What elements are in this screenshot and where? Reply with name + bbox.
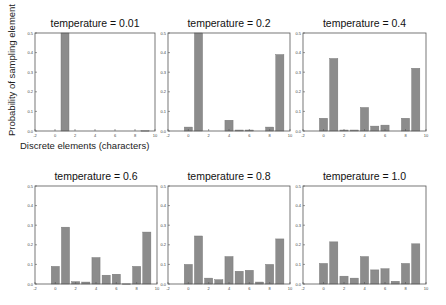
bar bbox=[61, 33, 69, 131]
plot-frame bbox=[168, 33, 290, 131]
bar bbox=[102, 275, 110, 284]
y-tick-label: 0.2 bbox=[295, 242, 301, 247]
y-axis-label: Probability of sampling element bbox=[6, 16, 18, 136]
x-tick-label: 4 bbox=[94, 133, 97, 138]
x-tick-label: 6 bbox=[115, 286, 118, 291]
bar bbox=[371, 270, 379, 284]
bar bbox=[381, 269, 389, 284]
x-tick-label: 8 bbox=[404, 286, 407, 291]
x-tick-label: 4 bbox=[363, 286, 366, 291]
panel-4: temperature = 0.8-202468100.00.10.20.30.… bbox=[154, 170, 304, 298]
y-tick-label: 0.0 bbox=[27, 282, 33, 287]
y-tick-label: 0.1 bbox=[27, 262, 33, 267]
y-tick-label: 0.2 bbox=[27, 242, 33, 247]
y-tick-label: 0.4 bbox=[160, 203, 166, 208]
y-tick-label: 0.2 bbox=[27, 89, 33, 94]
x-tick-label: 10 bbox=[424, 286, 429, 291]
y-tick-label: 0.3 bbox=[295, 223, 301, 228]
x-tick-label: 6 bbox=[248, 133, 251, 138]
bar bbox=[194, 236, 202, 284]
x-tick-label: -2 bbox=[166, 133, 170, 138]
bar bbox=[61, 227, 69, 284]
x-tick-label: 2 bbox=[208, 286, 211, 291]
y-tick-label: 0.3 bbox=[27, 223, 33, 228]
x-tick-label: 2 bbox=[208, 133, 211, 138]
x-tick-label: 2 bbox=[343, 286, 346, 291]
y-tick-label: 0.0 bbox=[27, 129, 33, 134]
x-tick-label: 0 bbox=[187, 286, 190, 291]
x-tick-label: -2 bbox=[166, 286, 170, 291]
panel-3: temperature = 0.6-202468100.00.10.20.30.… bbox=[21, 170, 171, 298]
y-tick-label: 0.4 bbox=[160, 50, 166, 55]
bar bbox=[184, 264, 192, 284]
y-tick-label: 0.5 bbox=[160, 31, 166, 36]
bar bbox=[133, 266, 141, 284]
x-tick-label: -2 bbox=[33, 133, 37, 138]
bar-chart: -202468100.00.10.20.30.40.5 bbox=[21, 170, 171, 298]
x-tick-label: 6 bbox=[384, 133, 387, 138]
y-tick-label: 0.3 bbox=[27, 70, 33, 75]
x-tick-label: 6 bbox=[248, 286, 251, 291]
x-tick-label: 2 bbox=[74, 133, 77, 138]
bar bbox=[330, 58, 338, 131]
bar bbox=[360, 107, 368, 131]
y-tick-label: 0.1 bbox=[295, 262, 301, 267]
bar bbox=[360, 257, 368, 284]
plot-frame bbox=[35, 33, 155, 131]
y-tick-label: 0.1 bbox=[295, 109, 301, 114]
x-tick-label: 8 bbox=[269, 133, 272, 138]
bar-chart: -202468100.00.10.20.30.40.5 bbox=[289, 17, 440, 145]
y-tick-label: 0.4 bbox=[295, 50, 301, 55]
y-tick-label: 0.4 bbox=[27, 203, 33, 208]
x-tick-label: 2 bbox=[75, 286, 78, 291]
x-tick-label: 4 bbox=[95, 286, 98, 291]
y-tick-label: 0.0 bbox=[295, 129, 301, 134]
y-tick-label: 0.2 bbox=[295, 89, 301, 94]
x-tick-label: 8 bbox=[136, 286, 139, 291]
x-tick-label: 0 bbox=[187, 133, 190, 138]
bar bbox=[412, 68, 420, 131]
y-tick-label: 0.1 bbox=[160, 262, 166, 267]
x-tick-label: 8 bbox=[134, 133, 137, 138]
bar bbox=[319, 263, 327, 284]
y-tick-label: 0.3 bbox=[160, 223, 166, 228]
x-tick-label: -2 bbox=[301, 133, 305, 138]
bar bbox=[276, 239, 284, 284]
bar bbox=[194, 33, 202, 131]
y-tick-label: 0.2 bbox=[160, 242, 166, 247]
y-tick-label: 0.1 bbox=[27, 109, 33, 114]
bar-chart: -202468100.00.10.20.30.40.5 bbox=[154, 170, 304, 298]
bar-chart: -202468100.00.10.20.30.40.5 bbox=[21, 17, 169, 145]
bar-chart: -202468100.00.10.20.30.40.5 bbox=[289, 170, 440, 298]
bar bbox=[401, 263, 409, 284]
bar bbox=[276, 55, 284, 131]
bar bbox=[371, 126, 379, 131]
bar bbox=[391, 281, 399, 284]
panel-2: temperature = 0.4-202468100.00.10.20.30.… bbox=[289, 17, 440, 145]
bar bbox=[215, 280, 223, 284]
x-tick-label: 10 bbox=[424, 133, 429, 138]
bar bbox=[412, 244, 420, 284]
y-tick-label: 0.0 bbox=[160, 129, 166, 134]
x-tick-label: 4 bbox=[228, 286, 231, 291]
x-tick-label: 0 bbox=[322, 133, 325, 138]
y-tick-label: 0.5 bbox=[27, 184, 33, 189]
panel-0: temperature = 0.01-202468100.00.10.20.30… bbox=[21, 17, 169, 145]
bar bbox=[330, 242, 338, 284]
bar bbox=[266, 264, 274, 284]
x-tick-label: -2 bbox=[301, 286, 305, 291]
x-tick-label: -2 bbox=[33, 286, 37, 291]
x-tick-label: 4 bbox=[228, 133, 231, 138]
x-tick-label: 4 bbox=[363, 133, 366, 138]
bar bbox=[235, 271, 243, 284]
bar bbox=[350, 278, 358, 284]
bar bbox=[245, 270, 253, 284]
x-tick-label: 8 bbox=[404, 133, 407, 138]
x-tick-label: 8 bbox=[269, 286, 272, 291]
bar bbox=[51, 266, 59, 284]
y-tick-label: 0.5 bbox=[27, 31, 33, 36]
x-tick-label: 0 bbox=[54, 133, 57, 138]
y-tick-label: 0.3 bbox=[160, 70, 166, 75]
y-tick-label: 0.4 bbox=[27, 50, 33, 55]
y-tick-label: 0.0 bbox=[295, 282, 301, 287]
